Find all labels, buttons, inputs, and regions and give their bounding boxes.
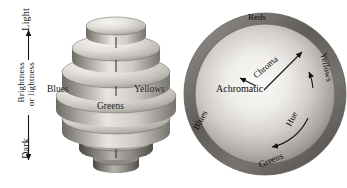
axis-label-dark: Dark <box>20 138 31 159</box>
color-solid-figure: Light Brightness or lightness Dark Blues… <box>0 0 347 188</box>
solid-label-yellows: Yellows <box>134 84 165 94</box>
axis-label-or-lightness: or lightness <box>26 62 36 106</box>
axis-label-brightness: Brightness <box>16 62 26 103</box>
figure-canvas <box>0 0 347 188</box>
color-solid <box>56 17 176 173</box>
solid-label-greens: Greens <box>97 101 124 111</box>
circle-label-achromatic: Achromatic <box>216 83 263 94</box>
axis-label-light: Light <box>20 8 31 31</box>
hue-circle <box>184 13 346 175</box>
solid-label-blues: Blues <box>47 84 69 94</box>
circle-label-reds: Reds <box>248 12 266 22</box>
